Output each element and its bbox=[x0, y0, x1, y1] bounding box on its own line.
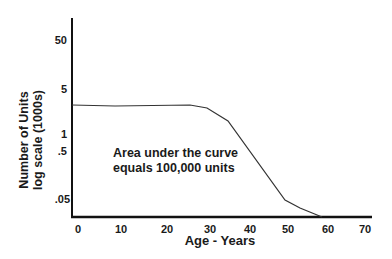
x-tick-label: 70 bbox=[350, 223, 380, 235]
y-tick-label: 1 bbox=[37, 128, 67, 140]
y-tick-label: .05 bbox=[40, 193, 70, 205]
y-tick-label: .5 bbox=[37, 145, 67, 157]
y-tick-label: 50 bbox=[37, 34, 67, 46]
x-tick-label: 60 bbox=[313, 223, 343, 235]
y-tick-label: 5 bbox=[37, 83, 67, 95]
x-tick-label: 50 bbox=[273, 223, 303, 235]
chart: Number of Units log scale (1000s) 50 5 1… bbox=[0, 0, 392, 259]
x-axis-label: Age - Years bbox=[170, 233, 270, 248]
x-tick-label: 10 bbox=[106, 223, 136, 235]
annotation-line2: equals 100,000 units bbox=[113, 161, 238, 176]
x-tick-label: 0 bbox=[63, 223, 93, 235]
y-axis-label-line1: Number of Units bbox=[17, 70, 31, 210]
annotation: Area under the curve equals 100,000 unit… bbox=[113, 146, 238, 176]
annotation-line1: Area under the curve bbox=[113, 146, 238, 161]
